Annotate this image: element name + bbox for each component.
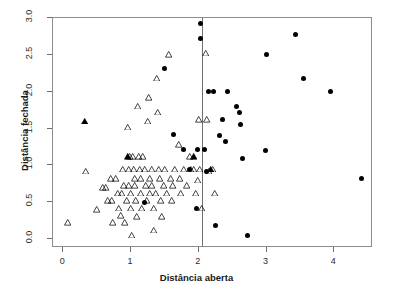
scatter-plot-figure: 012340.00.51.01.52.02.53.0 Distância abe… (0, 0, 393, 295)
x-axis-label: Distância aberta (0, 272, 393, 283)
data-point-open-triangle (158, 213, 165, 220)
data-point-filled-circle (238, 122, 243, 127)
data-point-open-triangle (123, 197, 130, 204)
x-axis-tick (130, 247, 131, 252)
data-point-open-triangle (161, 166, 168, 173)
data-point-filled-circle (237, 110, 242, 115)
data-point-filled-circle (225, 89, 230, 94)
data-point-open-triangle (152, 190, 159, 197)
data-point-open-triangle (150, 227, 157, 234)
data-point-open-triangle (132, 197, 139, 204)
data-point-filled-circle (198, 36, 203, 41)
data-point-open-triangle (118, 190, 125, 197)
data-point-open-triangle (160, 182, 167, 189)
data-point-open-triangle (211, 190, 218, 197)
data-point-filled-circle (217, 133, 222, 138)
data-point-filled-circle (213, 223, 218, 228)
data-point-filled-circle (240, 156, 245, 161)
data-point-filled-circle (301, 76, 306, 81)
x-axis-tick (333, 247, 334, 252)
data-point-filled-circle (171, 132, 176, 137)
data-point-filled-circle (142, 200, 147, 205)
data-point-open-triangle (133, 213, 140, 220)
x-axis-tick (62, 247, 63, 252)
y-axis-tick (47, 91, 52, 92)
data-point-open-triangle (102, 184, 109, 191)
data-point-open-triangle (157, 197, 164, 204)
data-point-open-triangle (171, 166, 178, 173)
data-point-open-triangle (146, 175, 153, 182)
y-axis-label: Distância fechada (19, 61, 30, 201)
data-point-filled-circle (328, 89, 333, 94)
y-axis-tick (47, 164, 52, 165)
data-point-filled-circle (220, 117, 225, 122)
data-point-open-triangle (148, 182, 155, 189)
data-point-filled-circle (202, 147, 207, 152)
data-point-open-triangle (163, 190, 170, 197)
data-point-open-triangle (195, 116, 202, 123)
data-point-filled-circle (264, 52, 269, 57)
y-axis-tick (47, 54, 52, 55)
data-point-open-triangle (124, 124, 131, 131)
data-point-open-triangle (154, 109, 161, 116)
data-point-open-triangle (192, 190, 199, 197)
data-point-open-triangle (137, 190, 144, 197)
data-point-open-triangle (144, 118, 151, 125)
data-point-open-triangle (117, 212, 124, 219)
x-axis-tick-label: 1 (127, 256, 132, 266)
data-point-open-triangle (194, 177, 201, 184)
y-axis-tick-label: 0.0 (24, 224, 34, 250)
data-point-filled-circle (195, 147, 200, 152)
data-point-filled-triangle (190, 153, 197, 160)
data-point-open-triangle (93, 206, 100, 213)
data-point-open-triangle (115, 205, 122, 212)
plot-frame (52, 17, 372, 247)
x-axis-tick-label: 2 (195, 256, 200, 266)
data-point-open-triangle (176, 175, 183, 182)
data-point-open-triangle (168, 197, 175, 204)
data-point-open-triangle (134, 103, 141, 110)
x-axis-tick-label: 4 (331, 256, 336, 266)
data-point-open-triangle (121, 219, 128, 226)
data-point-open-triangle (183, 182, 190, 189)
data-point-open-triangle (128, 232, 135, 239)
data-point-open-triangle (127, 205, 134, 212)
data-point-open-triangle (150, 205, 157, 212)
data-point-open-triangle (202, 50, 209, 57)
data-point-open-triangle (64, 219, 71, 226)
y-axis-tick (47, 238, 52, 239)
x-axis-tick (198, 247, 199, 252)
data-point-filled-circle (162, 66, 167, 71)
x-axis-tick (266, 247, 267, 252)
y-axis-tick (47, 17, 52, 18)
data-point-filled-triangle (81, 118, 88, 125)
data-point-open-triangle (108, 197, 115, 204)
data-point-open-triangle (165, 51, 172, 58)
data-point-filled-circle (359, 176, 364, 181)
data-point-open-triangle (153, 75, 160, 82)
data-point-open-triangle (127, 190, 134, 197)
plot-data-area (53, 18, 371, 246)
data-point-filled-circle (293, 32, 298, 37)
data-point-open-triangle (198, 205, 205, 212)
data-point-open-triangle (177, 190, 184, 197)
y-axis-tick (47, 201, 52, 202)
y-axis-tick (47, 128, 52, 129)
x-axis-tick-label: 3 (263, 256, 268, 266)
data-point-filled-circle (223, 139, 228, 144)
data-point-filled-circle (245, 233, 250, 238)
data-point-open-triangle (112, 175, 119, 182)
data-point-open-triangle (167, 175, 174, 182)
data-point-open-triangle (196, 166, 203, 173)
data-point-filled-circle (211, 89, 216, 94)
data-point-open-triangle (156, 175, 163, 182)
data-point-open-triangle (109, 219, 116, 226)
data-point-open-triangle (138, 205, 145, 212)
data-point-open-triangle (203, 116, 210, 123)
y-axis-tick-label: 3.0 (24, 3, 34, 29)
data-point-filled-circle (234, 104, 239, 109)
data-point-open-triangle (145, 94, 152, 101)
data-point-filled-circle (187, 167, 192, 172)
data-point-filled-circle (263, 148, 268, 153)
data-point-open-triangle (137, 175, 144, 182)
